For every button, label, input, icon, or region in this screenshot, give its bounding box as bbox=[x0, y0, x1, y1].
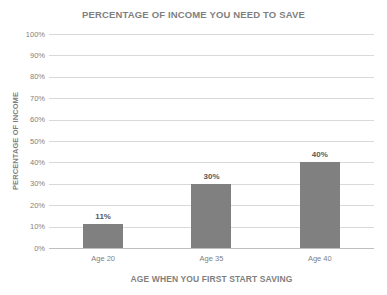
y-tick-label: 40% bbox=[3, 158, 45, 167]
bar-chart: PERCENTAGE OF INCOME YOU NEED TO SAVE PE… bbox=[0, 0, 387, 295]
bar-value-label: 11% bbox=[95, 212, 111, 222]
bar-group: 40% bbox=[266, 34, 374, 248]
bar-value-label: 30% bbox=[203, 172, 219, 182]
bar-group: 11% bbox=[49, 34, 157, 248]
bars-layer: 11%30%40% bbox=[49, 34, 374, 248]
bar[interactable] bbox=[83, 224, 123, 248]
category-label: Age 40 bbox=[266, 253, 374, 265]
chart-title: PERCENTAGE OF INCOME YOU NEED TO SAVE bbox=[0, 9, 387, 20]
x-axis-title: AGE WHEN YOU FIRST START SAVING bbox=[49, 274, 374, 284]
category-label: Age 20 bbox=[49, 253, 157, 265]
y-tick-label: 100% bbox=[3, 30, 45, 39]
bar[interactable] bbox=[300, 162, 340, 248]
y-axis-tick-labels: 100%90%80%70%60%50%40%30%20%10%0% bbox=[0, 34, 45, 248]
y-tick-label: 80% bbox=[3, 72, 45, 81]
y-tick-label: 90% bbox=[3, 51, 45, 60]
bar-value-label: 40% bbox=[312, 150, 328, 160]
bar[interactable] bbox=[191, 184, 231, 248]
y-tick-label: 70% bbox=[3, 94, 45, 103]
y-tick-label: 20% bbox=[3, 201, 45, 210]
y-tick-label: 30% bbox=[3, 179, 45, 188]
bar-group: 30% bbox=[157, 34, 265, 248]
y-tick-label: 0% bbox=[3, 244, 45, 253]
y-tick-label: 10% bbox=[3, 222, 45, 231]
category-label: Age 35 bbox=[157, 253, 265, 265]
y-tick-label: 60% bbox=[3, 115, 45, 124]
x-axis-category-labels: Age 20Age 35Age 40 bbox=[49, 253, 374, 267]
gridline-0 bbox=[49, 248, 374, 249]
y-tick-label: 50% bbox=[3, 137, 45, 146]
